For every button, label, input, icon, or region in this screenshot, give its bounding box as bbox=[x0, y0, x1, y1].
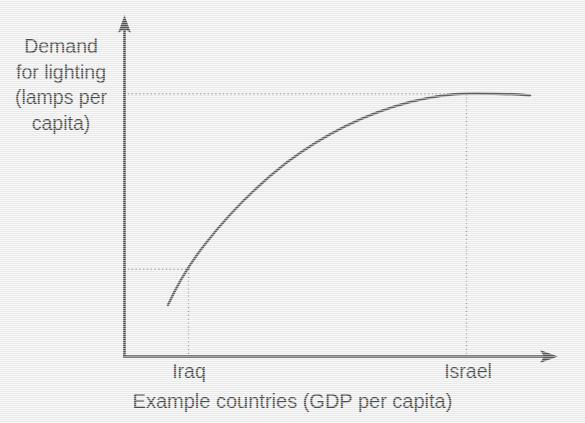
figure-canvas: Demand for lighting (lamps per capita) I… bbox=[0, 0, 585, 423]
y-axis-label: Demand for lighting (lamps per capita) bbox=[4, 34, 118, 136]
y-axis-label-line-2: for lighting bbox=[4, 60, 118, 86]
x-tick-label-israel: Israel bbox=[444, 360, 492, 382]
y-axis-label-line-1: Demand bbox=[4, 34, 118, 60]
y-axis-label-line-4: capita) bbox=[4, 111, 118, 137]
demand-curve bbox=[168, 93, 530, 305]
x-tick-label-iraq: Iraq bbox=[172, 360, 206, 382]
x-axis-label: Example countries (GDP per capita) bbox=[0, 389, 585, 413]
y-axis-label-line-3: (lamps per bbox=[4, 85, 118, 111]
